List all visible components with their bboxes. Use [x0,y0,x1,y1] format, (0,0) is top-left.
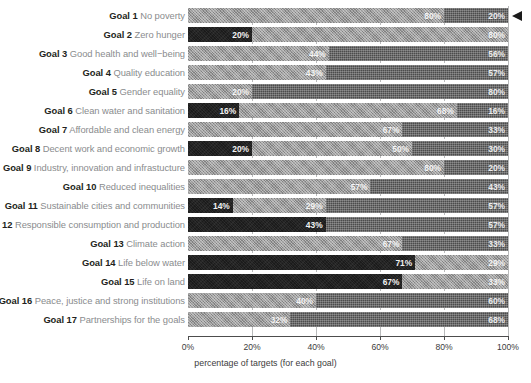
bar-segment[interactable]: 80% [188,8,444,23]
row-goal-number: Goal 15 [101,276,135,287]
bar-segment[interactable]: 67% [188,236,402,251]
bar-segment[interactable]: 32% [188,312,290,327]
chart-row: Goal 12 Responsible consumption and prod… [0,215,531,234]
row-goal-number: Goal 16 [0,295,32,306]
stacked-bar[interactable]: 14%29%57% [188,198,508,213]
row-goal-name: No poverty [140,10,185,21]
bar-segment[interactable]: 16% [188,103,239,118]
bar-segment[interactable]: 71% [188,255,415,270]
bar-segment[interactable]: 60% [316,293,508,308]
bar-segment[interactable]: 43% [188,65,326,80]
row-plot: 71%29% [188,253,508,268]
stacked-bar[interactable]: 80%20% [188,160,508,175]
row-goal-name: Peace, justice and strong institutions [35,295,185,306]
x-tick-label: 100% [497,342,519,352]
bar-segment[interactable]: 14% [188,198,233,213]
stacked-bar[interactable]: 67%33% [188,274,508,289]
stacked-bar[interactable]: 57%43% [188,179,508,194]
bar-segment[interactable]: 67% [188,274,402,289]
row-goal-number: Goal 8 [12,143,40,154]
chart-row: Goal 11 Sustainable cities and communiti… [0,196,531,215]
bar-segment[interactable]: 43% [370,179,508,194]
row-goal-name: Decent work and economic growth [43,143,185,154]
stacked-bar[interactable]: 71%29% [188,255,508,270]
bar-segment[interactable]: 68% [239,103,457,118]
row-label-goal-12: Goal 12 Responsible consumption and prod… [0,215,185,234]
stacked-bar[interactable]: 67%33% [188,122,508,137]
bar-segment[interactable]: 29% [233,198,326,213]
row-label-goal-14: Goal 14 Life below water [82,253,185,272]
bar-segment[interactable]: 56% [329,46,508,61]
stacked-bar[interactable]: 16%68%16% [188,103,508,118]
bar-segment[interactable]: 20% [188,27,252,42]
stacked-bar[interactable]: 20%50%30% [188,141,508,156]
stacked-bar[interactable]: 20%80% [188,84,508,99]
bar-segment[interactable]: 33% [402,122,508,137]
bar-segment-value: 40% [296,296,316,306]
chart-row: Goal 4 Quality education43%57% [0,63,531,82]
chart-row: Goal 7 Affordable and clean energy67%33% [0,120,531,139]
row-label-goal-7: Goal 7 Affordable and clean energy [39,120,185,139]
bar-segment[interactable]: 33% [402,274,508,289]
bar-segment[interactable]: 29% [415,255,508,270]
x-tick [380,336,381,340]
bar-segment-value: 80% [424,163,444,173]
row-label-goal-6: Goal 6 Clean water and sanitation [44,101,185,120]
bar-segment[interactable]: 20% [188,84,252,99]
row-label-goal-16: Goal 16 Peace, justice and strong instit… [0,291,185,310]
bar-segment-value: 16% [488,106,508,116]
stacked-bar[interactable]: 80%20% [188,8,508,23]
bar-segment[interactable]: 33% [402,236,508,251]
bar-segment-value: 20% [232,30,252,40]
x-tick [252,336,253,340]
bar-segment[interactable]: 20% [444,8,508,23]
bar-segment[interactable]: 20% [188,141,252,156]
bar-segment[interactable]: 57% [326,65,508,80]
bar-segment[interactable]: 57% [188,179,370,194]
bar-segment-value: 67% [383,277,403,287]
bar-segment-value: 57% [351,182,371,192]
bar-segment[interactable]: 30% [412,141,508,156]
chart-rows: Goal 1 No poverty80%20%Goal 2 Zero hunge… [0,6,531,329]
row-label-goal-10: Goal 10 Reduced inequalities [63,177,185,196]
bar-segment[interactable]: 44% [188,46,329,61]
bar-segment[interactable]: 67% [188,122,402,137]
chart-row: Goal 15 Life on land67%33% [0,272,531,291]
row-label-goal-3: Goal 3 Good health and well−being [39,44,185,63]
bar-segment-value: 20% [488,163,508,173]
bar-segment-value: 30% [488,144,508,154]
row-plot: 80%20% [188,158,508,173]
bar-segment-value: 29% [488,258,508,268]
bar-segment[interactable]: 57% [326,198,508,213]
stacked-bar[interactable]: 43%57% [188,217,508,232]
bar-segment[interactable]: 43% [188,217,326,232]
stacked-bar[interactable]: 67%33% [188,236,508,251]
row-goal-number: Goal 17 [43,314,77,325]
row-goal-name: Partnerships for the goals [79,314,185,325]
row-label-goal-13: Goal 13 Climate action [90,234,185,253]
x-tick [508,336,509,340]
bar-segment[interactable]: 80% [252,27,508,42]
stacked-bar[interactable]: 43%57% [188,65,508,80]
bar-segment[interactable]: 20% [444,160,508,175]
stacked-bar[interactable]: 40%60% [188,293,508,308]
row-label-goal-1: Goal 1 No poverty [109,6,185,25]
bar-segment[interactable]: 57% [326,217,508,232]
bar-segment[interactable]: 80% [252,84,508,99]
stacked-bar[interactable]: 32%68% [188,312,508,327]
bar-segment[interactable]: 50% [252,141,412,156]
row-label-goal-9: Goal 9 Industry, innovation and infrastu… [3,158,185,177]
bar-segment-value: 20% [232,87,252,97]
bar-segment[interactable]: 16% [457,103,508,118]
row-goal-number: Goal 11 [5,200,38,211]
stacked-bar[interactable]: 20%80% [188,27,508,42]
bar-segment[interactable]: 80% [188,160,444,175]
x-tick-label: 0% [182,342,194,352]
bar-segment[interactable]: 68% [290,312,508,327]
bar-segment-value: 43% [306,220,326,230]
bar-segment-value: 68% [437,106,457,116]
bar-segment[interactable]: 40% [188,293,316,308]
row-plot: 40%60% [188,291,508,306]
stacked-bar[interactable]: 44%56% [188,46,508,61]
bar-segment-value: 29% [306,201,326,211]
